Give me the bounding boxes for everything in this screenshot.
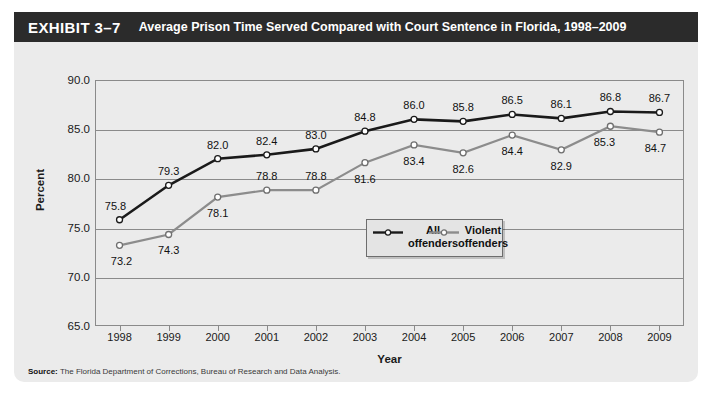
x-axis-tick-label: 2006 bbox=[500, 331, 524, 343]
y-axis-tick-label: 75.0 bbox=[44, 222, 90, 234]
x-axis-tick-label: 1998 bbox=[107, 331, 131, 343]
data-point-label: 78.1 bbox=[207, 207, 228, 219]
data-point-label: 74.3 bbox=[158, 244, 179, 256]
data-point-label: 78.8 bbox=[256, 170, 277, 182]
exhibit-header-bar: EXHIBIT 3–7 Average Prison Time Served C… bbox=[14, 12, 698, 42]
data-point-label: 83.0 bbox=[305, 129, 326, 141]
data-point-label: 79.3 bbox=[158, 165, 179, 177]
x-axis-tick-label: 2003 bbox=[353, 331, 377, 343]
data-point-label: 85.8 bbox=[452, 101, 473, 113]
data-point-label: 84.7 bbox=[645, 142, 666, 154]
legend-label-violent-line2: offenders bbox=[455, 237, 511, 250]
data-point-label: 86.8 bbox=[600, 91, 621, 103]
x-axis-tick-mark bbox=[512, 326, 513, 331]
x-axis-tick-label: 2004 bbox=[402, 331, 426, 343]
legend-swatch-all-offenders bbox=[373, 224, 403, 235]
y-axis-tick-label: 65.0 bbox=[44, 320, 90, 332]
gridline bbox=[96, 130, 683, 131]
data-point-label: 86.1 bbox=[551, 98, 572, 110]
exhibit-card: EXHIBIT 3–7 Average Prison Time Served C… bbox=[14, 12, 698, 382]
x-axis-tick-label: 2007 bbox=[549, 331, 573, 343]
x-axis-tick-mark bbox=[267, 326, 268, 331]
x-axis-tick-mark bbox=[659, 326, 660, 331]
data-point-label: 82.6 bbox=[452, 163, 473, 175]
x-axis-tick-label: 2000 bbox=[205, 331, 229, 343]
data-point-label: 85.3 bbox=[594, 136, 615, 148]
x-axis-tick-mark bbox=[218, 326, 219, 331]
legend-entry-violent-offenders: Violent offenders bbox=[455, 224, 511, 250]
legend-label-violent-line1: Violent bbox=[455, 224, 511, 237]
source-note: Source: The Florida Department of Correc… bbox=[28, 367, 340, 376]
chart-region: Percent 90.085.080.075.070.065.0 75.879.… bbox=[14, 42, 698, 382]
x-axis-title: Year bbox=[95, 353, 684, 365]
x-axis-tick-label: 2002 bbox=[304, 331, 328, 343]
x-axis-tick-mark bbox=[561, 326, 562, 331]
x-axis-tick-mark bbox=[365, 326, 366, 331]
y-axis-tick-labels: 90.085.080.075.070.065.0 bbox=[40, 80, 90, 326]
x-axis-tick-label: 2009 bbox=[647, 331, 671, 343]
data-point-label: 73.2 bbox=[111, 255, 132, 267]
data-point-label: 86.0 bbox=[403, 99, 424, 111]
x-axis-tick-mark bbox=[463, 326, 464, 331]
data-point-label: 86.5 bbox=[501, 94, 522, 106]
data-point-label: 84.8 bbox=[354, 111, 375, 123]
legend-label-all-line2: offenders bbox=[405, 237, 461, 250]
data-point-label: 82.0 bbox=[207, 139, 228, 151]
plot-area bbox=[95, 80, 684, 326]
x-axis-tick-mark bbox=[169, 326, 170, 331]
chart-legend: All offenders Violent offenders bbox=[366, 219, 503, 257]
gridline bbox=[96, 179, 683, 180]
x-axis-tick-labels: 1998199920002001200220032004200520062007… bbox=[95, 331, 684, 347]
exhibit-number: EXHIBIT 3–7 bbox=[28, 19, 121, 36]
y-axis-tick-label: 85.0 bbox=[44, 123, 90, 135]
data-point-label: 82.4 bbox=[256, 135, 277, 147]
x-axis-tick-label: 2001 bbox=[255, 331, 279, 343]
exhibit-title: Average Prison Time Served Compared with… bbox=[139, 20, 627, 34]
x-axis-tick-label: 1999 bbox=[156, 331, 180, 343]
source-label: Source: bbox=[28, 367, 58, 376]
x-axis-tick-label: 2008 bbox=[598, 331, 622, 343]
x-axis-tick-mark bbox=[610, 326, 611, 331]
x-axis-tick-mark bbox=[414, 326, 415, 331]
data-point-label: 78.8 bbox=[305, 170, 326, 182]
data-point-label: 82.9 bbox=[551, 160, 572, 172]
y-axis-tick-label: 80.0 bbox=[44, 172, 90, 184]
x-axis-tick-label: 2005 bbox=[451, 331, 475, 343]
data-point-label: 86.7 bbox=[649, 92, 670, 104]
x-axis-tick-mark bbox=[316, 326, 317, 331]
gridline bbox=[96, 278, 683, 279]
data-point-label: 84.4 bbox=[501, 145, 522, 157]
data-point-label: 81.6 bbox=[354, 173, 375, 185]
data-point-label: 75.8 bbox=[105, 200, 126, 212]
x-axis-tick-mark bbox=[120, 326, 121, 331]
y-axis-tick-label: 90.0 bbox=[44, 74, 90, 86]
source-text: The Florida Department of Corrections, B… bbox=[60, 367, 341, 376]
y-axis-tick-label: 70.0 bbox=[44, 271, 90, 283]
data-point-label: 83.4 bbox=[403, 155, 424, 167]
